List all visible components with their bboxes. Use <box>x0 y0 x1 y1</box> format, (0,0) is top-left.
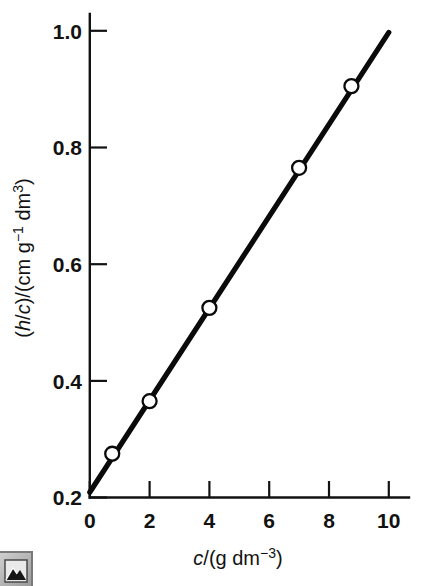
y-axis-title-symbol2: c <box>12 304 34 314</box>
data-point-marker <box>105 447 119 461</box>
axes-group <box>90 14 409 498</box>
y-axis-title: (h/c)/(cm g−1 dm3) <box>10 178 34 337</box>
y-axis-title-close: ) <box>12 178 34 185</box>
y-axis-title-mid2: dm <box>12 193 34 226</box>
data-point-marker <box>143 394 157 408</box>
y-tick-marks <box>90 31 107 498</box>
y-tick-label: 0.2 <box>53 486 82 509</box>
x-axis-title-close: ) <box>276 547 283 569</box>
y-tick-label: 0.6 <box>53 253 82 276</box>
chart-figure: 1.0 0.8 0.6 0.4 0.2 0 2 4 6 8 10 c/(g dm… <box>0 0 426 586</box>
y-axis-title-exponent1: −1 <box>10 226 26 242</box>
x-tick-labels: 0 2 4 6 8 10 <box>84 509 401 532</box>
x-tick-label: 8 <box>323 509 335 532</box>
x-tick-label: 4 <box>204 509 216 532</box>
regression-line <box>90 32 389 492</box>
x-tick-marks <box>90 481 389 498</box>
x-axis-title-rest: /(g dm <box>203 547 260 569</box>
x-tick-label: 6 <box>263 509 275 532</box>
y-axis-title-symbol1: h <box>12 320 34 331</box>
x-tick-label: 0 <box>84 509 96 532</box>
y-tick-label: 0.4 <box>53 370 83 393</box>
y-tick-label: 1.0 <box>53 20 82 43</box>
y-axis-title-mid: )/(cm g <box>12 242 34 304</box>
x-axis-title: c/(g dm−3) <box>193 545 282 569</box>
y-axis-title-exponent2: 3 <box>10 185 26 193</box>
x-axis-title-symbol: c <box>193 547 203 569</box>
data-point-marker <box>202 301 216 315</box>
scatter-plot: 1.0 0.8 0.6 0.4 0.2 0 2 4 6 8 10 c/(g dm… <box>0 0 426 586</box>
y-tick-labels: 1.0 0.8 0.6 0.4 0.2 <box>53 20 83 509</box>
broken-image-icon <box>0 551 33 586</box>
x-tick-label: 2 <box>144 509 156 532</box>
data-point-marker <box>344 79 358 93</box>
data-point-marker <box>292 161 306 175</box>
svg-text:(h/c)/(cm g−1 dm3): (h/c)/(cm g−1 dm3) <box>10 178 34 337</box>
y-tick-label: 0.8 <box>53 136 83 159</box>
svg-text:c/(g dm−3): c/(g dm−3) <box>193 545 282 569</box>
x-tick-label: 10 <box>377 509 400 532</box>
broken-image-glyph <box>4 559 28 583</box>
x-axis-title-exponent: −3 <box>260 545 276 561</box>
